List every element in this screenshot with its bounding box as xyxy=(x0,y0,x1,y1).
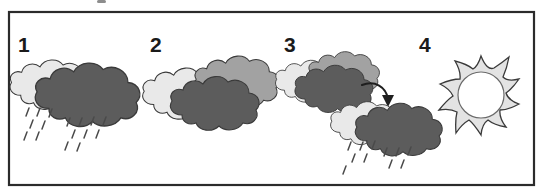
sun-core xyxy=(458,72,504,118)
panel-2-number: 2 xyxy=(150,33,162,56)
panel-1-number: 1 xyxy=(18,33,30,56)
panel-4-number: 4 xyxy=(419,33,431,56)
panel-3-number: 3 xyxy=(284,33,296,56)
weather-sequence-figure: 1 2 xyxy=(0,0,546,195)
clipped-mark-top-edge xyxy=(97,0,106,3)
